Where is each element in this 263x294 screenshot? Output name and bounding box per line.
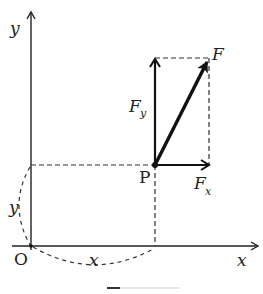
distance-braces [19, 167, 155, 265]
projection-lines [31, 58, 209, 246]
horizontal-distance-label: x [89, 250, 99, 270]
origin-label: O [14, 249, 28, 269]
vertical-distance-label: y [8, 197, 19, 217]
fy-subscript: y [139, 107, 147, 120]
vector-diagram: y x O P F F y F x y x [0, 0, 263, 294]
caption-faint-fragment [120, 287, 180, 289]
force-vector [155, 62, 207, 165]
y-axis-label: y [9, 18, 20, 38]
force-label: F [211, 44, 225, 64]
point-p-dot [152, 162, 158, 168]
origin-dot [29, 244, 33, 248]
fx-subscript: x [205, 185, 212, 198]
point-p-label: P [139, 167, 150, 187]
vertical-distance-brace [19, 167, 30, 245]
x-axis-label: x [237, 250, 247, 270]
